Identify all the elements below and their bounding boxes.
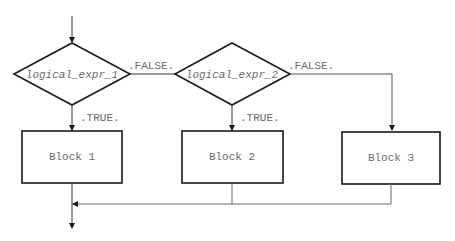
edge-d2-false (290, 74, 392, 130)
decision-1-label: logical_expr_1 (26, 69, 118, 81)
block-2: Block 2 (182, 131, 283, 183)
block-2-label: Block 2 (209, 151, 255, 163)
block-3-label: Block 3 (368, 152, 414, 164)
d1-false-label: .FALSE. (128, 60, 174, 72)
decision-2: logical_expr_2 (175, 43, 290, 105)
block-3: Block 3 (342, 132, 440, 184)
block-1: Block 1 (22, 131, 122, 183)
d2-false-label: .FALSE. (288, 60, 334, 72)
decision-2-label: logical_expr_2 (186, 69, 279, 81)
d2-true-label: .TRUE. (240, 112, 280, 124)
d1-true-label: .TRUE. (80, 112, 120, 124)
block-1-label: Block 1 (49, 151, 96, 163)
flowchart: logical_expr_1 .FALSE. logical_expr_2 .F… (0, 0, 455, 241)
decision-1: logical_expr_1 (14, 43, 130, 105)
